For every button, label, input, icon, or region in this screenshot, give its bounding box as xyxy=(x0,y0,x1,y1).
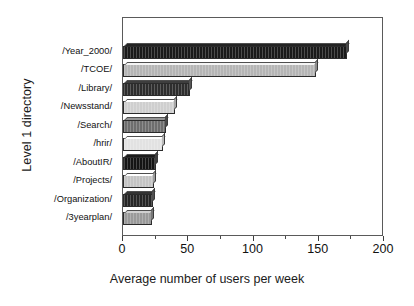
bar-side-face xyxy=(189,77,192,92)
bar-top-face xyxy=(124,191,156,194)
bar-chart: Level 1 directory /Year_2000/ /TCOE/ /Li… xyxy=(0,0,414,306)
bar-side-face xyxy=(152,188,155,203)
bar-series xyxy=(123,43,382,228)
x-axis-title: Average number of users per week xyxy=(0,272,414,286)
bar-texture xyxy=(124,158,155,169)
bar xyxy=(123,120,166,133)
x-major-tick xyxy=(383,236,384,241)
y-tick-label: /hrir/ xyxy=(28,135,116,154)
x-minor-tick xyxy=(155,236,156,239)
bar-row xyxy=(123,210,382,229)
bar xyxy=(123,175,154,188)
x-tick-label: 150 xyxy=(307,242,328,256)
bar-texture xyxy=(124,176,153,187)
bar-side-face xyxy=(315,58,318,73)
bar-top-face xyxy=(124,80,192,83)
bar-side-face xyxy=(162,132,165,147)
x-minor-tick xyxy=(220,236,221,239)
x-tick-label: 50 xyxy=(180,242,194,256)
bar-row xyxy=(123,173,382,192)
bar xyxy=(123,212,152,225)
x-tick-label: 0 xyxy=(119,242,126,256)
bar-row xyxy=(123,117,382,136)
y-tick-label: /Projects/ xyxy=(28,172,116,191)
y-tick-label: /Year_2000/ xyxy=(28,42,116,61)
x-minor-tick xyxy=(350,236,351,239)
bar-texture xyxy=(124,213,151,224)
x-major-tick xyxy=(318,236,319,241)
bar-top-face xyxy=(124,136,166,139)
bar-row xyxy=(123,191,382,210)
bar-side-face xyxy=(151,206,154,221)
y-tick-label: /Newsstand/ xyxy=(28,98,116,117)
y-tick-label: /TCOE/ xyxy=(28,61,116,80)
y-tick-label: /Library/ xyxy=(28,79,116,98)
bar-row xyxy=(123,99,382,118)
bar-texture xyxy=(124,65,315,76)
bar-side-face xyxy=(165,114,168,129)
bar xyxy=(123,157,156,170)
bar xyxy=(123,138,163,151)
bar-top-face xyxy=(124,173,157,176)
bar-row xyxy=(123,136,382,155)
y-tick-label: /Search/ xyxy=(28,116,116,135)
bar-row xyxy=(123,43,382,62)
bar xyxy=(123,46,347,59)
x-major-tick xyxy=(122,236,123,241)
bar-texture xyxy=(124,102,174,113)
y-tick-label: /Organization/ xyxy=(28,190,116,209)
plot-area xyxy=(122,17,383,236)
x-axis-tick-labels: 050100150200 xyxy=(122,242,383,258)
bar-side-face xyxy=(153,169,156,184)
bar-top-face xyxy=(124,43,350,46)
bar xyxy=(123,64,316,77)
y-tick-label: /AboutIR/ xyxy=(28,153,116,172)
bar-top-face xyxy=(124,62,319,65)
bar-texture xyxy=(124,195,152,206)
y-tick-label: /3yearplan/ xyxy=(28,209,116,228)
bar-top-face xyxy=(124,154,158,157)
bar-row xyxy=(123,80,382,99)
bar-side-face xyxy=(155,151,158,166)
bar-texture xyxy=(124,47,346,58)
bar-top-face xyxy=(124,117,169,120)
x-tick-label: 200 xyxy=(373,242,394,256)
bar-texture xyxy=(124,139,162,150)
bar-texture xyxy=(124,121,165,132)
bar-row xyxy=(123,62,382,81)
x-major-tick xyxy=(187,236,188,241)
bar-texture xyxy=(124,84,189,95)
x-minor-tick xyxy=(285,236,286,239)
bar xyxy=(123,83,190,96)
bar-top-face xyxy=(124,99,178,102)
bar xyxy=(123,101,175,114)
bar xyxy=(123,194,153,207)
y-axis-tick-labels: /Year_2000/ /TCOE/ /Library/ /Newsstand/… xyxy=(28,42,116,227)
bar-top-face xyxy=(124,210,154,213)
bar-side-face xyxy=(174,95,177,110)
bar-side-face xyxy=(346,40,349,55)
x-tick-label: 100 xyxy=(242,242,263,256)
bar-row xyxy=(123,154,382,173)
x-major-tick xyxy=(253,236,254,241)
